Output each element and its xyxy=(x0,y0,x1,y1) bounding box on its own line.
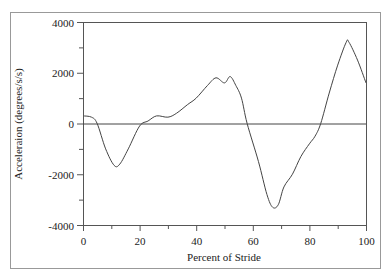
y-tick-label: 0 xyxy=(69,118,75,130)
x-tick-label: 20 xyxy=(135,235,147,247)
x-tick-label: 0 xyxy=(81,235,87,247)
x-axis-title: Percent of Stride xyxy=(187,251,261,263)
x-tick-label: 100 xyxy=(358,235,375,247)
y-tick-label: -4000 xyxy=(48,220,74,232)
y-tick-label: 4000 xyxy=(52,17,75,29)
x-tick-label: 40 xyxy=(191,235,203,247)
x-tick-label: 80 xyxy=(304,235,316,247)
y-tick-label: -2000 xyxy=(48,169,74,181)
x-tick-label: 60 xyxy=(248,235,260,247)
axes: 400020000-2000-4000020406080100 xyxy=(48,17,375,248)
acceleration-chart: 400020000-2000-4000020406080100 Percent … xyxy=(0,0,386,277)
y-tick-label: 2000 xyxy=(52,67,75,79)
y-axis-title: Acceleraion (degrees/s/s) xyxy=(12,68,25,180)
